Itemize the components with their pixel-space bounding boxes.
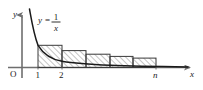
origin-label: O: [10, 69, 17, 79]
harmonic-series-figure: y x O 1 2 n y = 1 x: [0, 0, 203, 90]
figure-container: y x O 1 2 n y = 1 x: [0, 0, 203, 90]
tick-label-1: 1: [36, 70, 41, 80]
equation-denominator: x: [53, 23, 58, 33]
x-axis-label: x: [189, 69, 194, 79]
curve-equation-label: y = 1 x: [37, 12, 61, 33]
tick-label-2: 2: [59, 70, 64, 80]
equation-equals: =: [45, 15, 50, 25]
y-axis-label: y: [12, 9, 17, 19]
rectangle-2: [62, 51, 86, 68]
equation-y: y: [37, 15, 42, 25]
tick-label-n: n: [153, 70, 158, 80]
equation-numerator: 1: [54, 12, 59, 22]
